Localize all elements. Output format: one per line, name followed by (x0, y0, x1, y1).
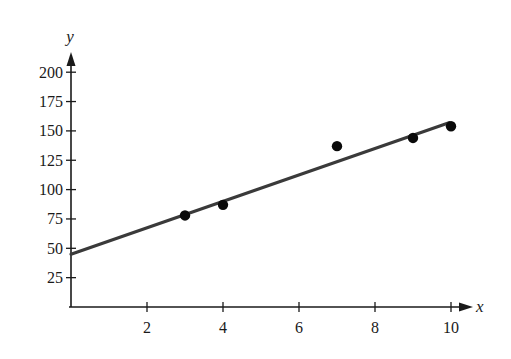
x-tick-label: 6 (295, 319, 303, 336)
data-point (408, 133, 418, 143)
data-points (180, 121, 456, 221)
y-tick-label: 25 (47, 269, 63, 286)
y-tick-label: 50 (47, 240, 63, 257)
regression-line (71, 123, 449, 254)
x-tick-label: 2 (143, 319, 151, 336)
x-tick-label: 10 (443, 319, 459, 336)
x-axis-title: x (475, 297, 484, 316)
data-point (218, 200, 228, 210)
y-tick-label: 100 (39, 181, 63, 198)
x-tick-label: 8 (371, 319, 379, 336)
data-point (332, 141, 342, 151)
y-axis-title: y (64, 27, 74, 46)
y-tick-label: 200 (39, 64, 63, 81)
x-axis-arrow-icon (459, 303, 473, 312)
scatter-chart: 255075100125150175200 246810 y x (0, 0, 511, 359)
data-point (180, 210, 190, 220)
x-tick-label: 4 (219, 319, 227, 336)
y-axis-arrow-icon (67, 52, 76, 66)
y-tick-label: 175 (39, 93, 63, 110)
y-tick-label: 75 (47, 210, 63, 227)
y-tick-label: 150 (39, 122, 63, 139)
y-tick-label: 125 (39, 152, 63, 169)
data-point (446, 121, 456, 131)
